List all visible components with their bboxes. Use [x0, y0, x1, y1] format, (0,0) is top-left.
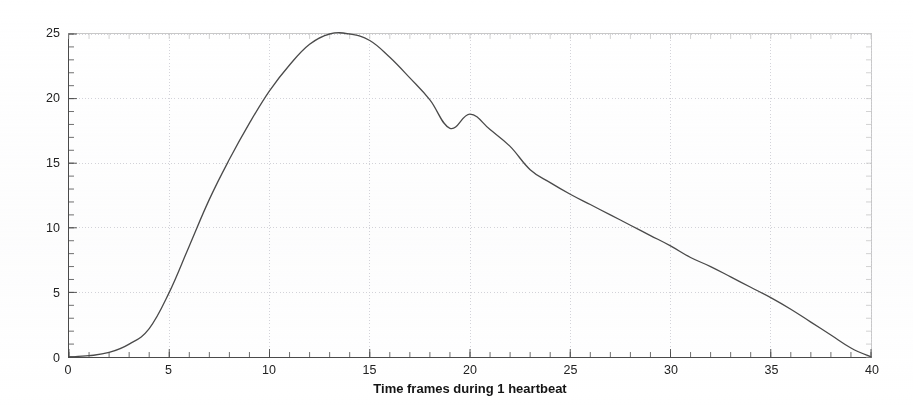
chart-figure: Vessel lumen increase % Time frames duri…	[0, 0, 913, 406]
x-tick-30: 30	[664, 363, 678, 377]
y-tick-5: 5	[24, 286, 60, 300]
x-tick-15: 15	[363, 363, 377, 377]
x-axis-label: Time frames during 1 heartbeat	[68, 381, 872, 396]
x-tick-40: 40	[865, 363, 879, 377]
y-tick-10: 10	[24, 221, 60, 235]
x-tick-25: 25	[564, 363, 578, 377]
x-tick-20: 20	[463, 363, 477, 377]
x-tick-10: 10	[262, 363, 276, 377]
y-tick-25: 25	[24, 26, 60, 40]
x-tick-35: 35	[765, 363, 779, 377]
plot-area	[68, 33, 872, 358]
y-tick-15: 15	[24, 156, 60, 170]
data-series-line	[69, 34, 871, 357]
y-tick-20: 20	[24, 91, 60, 105]
x-tick-0: 0	[65, 363, 72, 377]
x-tick-5: 5	[165, 363, 172, 377]
y-tick-0: 0	[24, 351, 60, 365]
